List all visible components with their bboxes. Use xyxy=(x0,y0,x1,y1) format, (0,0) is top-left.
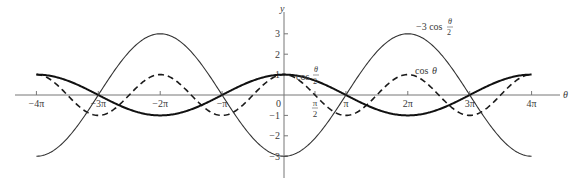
label-cos-half: cos θ 2 xyxy=(296,65,319,86)
svg-text:π: π xyxy=(313,98,318,108)
svg-text:cos: cos xyxy=(415,65,428,76)
label-neg3-cos-half: −3 cos θ 2 xyxy=(416,17,453,37)
svg-text:−3 cos: −3 cos xyxy=(416,21,443,32)
x-tick-label: −2π xyxy=(152,98,168,109)
label-cos: cos θ xyxy=(415,65,437,76)
y-axis-label: y xyxy=(279,3,285,14)
x-tick-label: π xyxy=(343,98,348,109)
y-tick-label: 3 xyxy=(275,28,280,39)
x-tick-label: −4π xyxy=(29,98,45,109)
svg-text:θ: θ xyxy=(448,17,452,26)
svg-text:θ: θ xyxy=(432,65,437,76)
svg-text:2: 2 xyxy=(313,109,318,119)
y-tick-label: −1 xyxy=(269,110,280,121)
svg-text:2: 2 xyxy=(313,77,317,86)
x-tick-label: 4π xyxy=(527,98,537,109)
x-tick-label: −π xyxy=(217,98,228,109)
svg-text:2: 2 xyxy=(447,28,451,37)
svg-text:θ: θ xyxy=(314,65,318,74)
x-axis-label: θ xyxy=(563,89,568,100)
x-tick-label: 2π xyxy=(403,98,413,109)
y-tick-label: −2 xyxy=(269,130,280,141)
origin-label: 0 xyxy=(276,98,281,109)
trig-chart: −4π−3π−2π−ππ2π2π3π4π321−1−2−3 y θ 0 −3 c… xyxy=(0,0,577,184)
svg-text:cos: cos xyxy=(296,71,309,82)
y-tick-label: 2 xyxy=(275,49,280,60)
